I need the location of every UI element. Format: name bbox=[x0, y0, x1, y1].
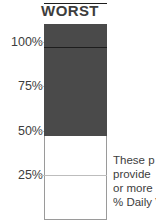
bar-segment-divider-75 bbox=[44, 3, 107, 4]
annotation-line-1: These p bbox=[113, 153, 156, 167]
y-axis-tick-label-100: 100% bbox=[1, 35, 43, 49]
tick-mark-75 bbox=[38, 86, 44, 87]
annotation-line-4: % Daily V bbox=[113, 195, 156, 209]
chart-title: WORST bbox=[28, 2, 112, 20]
y-axis-tick-label-50: 50% bbox=[1, 124, 43, 138]
bar-segment-divider-50 bbox=[44, 47, 107, 48]
annotation-line-3: or more bbox=[113, 181, 156, 195]
bar-fill bbox=[44, 24, 107, 136]
tick-mark-100 bbox=[38, 42, 44, 43]
bar-chart: WORST 100% 75% 50% 25% These p provide o… bbox=[0, 0, 156, 220]
gridline-25 bbox=[44, 175, 107, 176]
tick-mark-50 bbox=[38, 131, 44, 132]
chart-annotation: These p provide or more % Daily V bbox=[113, 153, 156, 209]
tick-mark-25 bbox=[38, 175, 44, 176]
bar-column bbox=[44, 24, 107, 220]
y-axis-tick-label-75: 75% bbox=[1, 79, 43, 93]
y-axis-tick-label-25: 25% bbox=[1, 168, 43, 182]
annotation-line-2: provide bbox=[113, 167, 156, 181]
